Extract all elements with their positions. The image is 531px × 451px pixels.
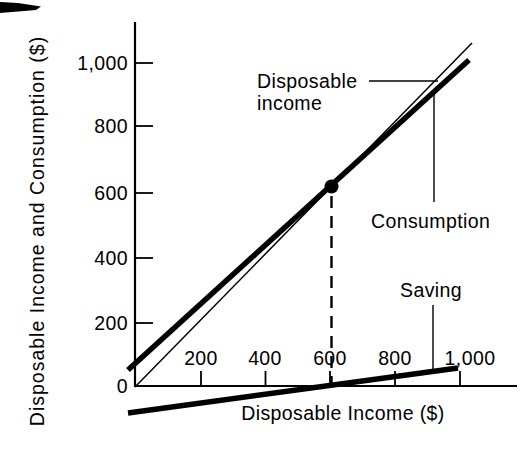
corner-scan-artifact bbox=[0, 2, 41, 13]
y-axis-title: Disposable Income and Consumption ($) bbox=[26, 36, 48, 426]
income-consumption-saving-figure: 1,000 800 600 400 200 0 200 400 600 800 … bbox=[0, 0, 531, 451]
y-tick-label-800: 800 bbox=[94, 115, 128, 137]
x-tick-label-400: 400 bbox=[248, 347, 282, 369]
x-tick-label-600: 600 bbox=[313, 347, 347, 369]
y-tick-label-1000: 1,000 bbox=[77, 52, 128, 74]
x-tick-label-800: 800 bbox=[378, 347, 412, 369]
y-tick-label-400: 400 bbox=[94, 247, 128, 269]
y-tick-label-600: 600 bbox=[94, 182, 128, 204]
chart-svg: 1,000 800 600 400 200 0 200 400 600 800 … bbox=[0, 0, 531, 451]
disposable-income-label-line1: Disposable bbox=[257, 70, 357, 92]
disposable-income-label-line2: income bbox=[257, 92, 322, 114]
y-tick-label-200: 200 bbox=[94, 312, 128, 334]
x-tick-label-200: 200 bbox=[184, 347, 218, 369]
x-axis-title: Disposable Income ($) bbox=[241, 402, 445, 424]
equilibrium-point-marker bbox=[325, 180, 339, 194]
consumption-label: Consumption bbox=[371, 210, 490, 232]
saving-label: Saving bbox=[400, 279, 462, 301]
x-tick-label-1000: 1,000 bbox=[445, 347, 496, 369]
y-tick-label-0: 0 bbox=[117, 375, 128, 397]
